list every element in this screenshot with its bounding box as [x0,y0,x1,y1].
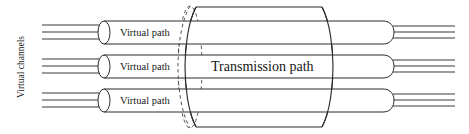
virtual-channels-left-bundle-1 [42,25,100,39]
virtual-channels-right-bundle-1 [393,26,455,38]
virtual-channels-right-bundle-2 [393,60,455,72]
virtual-path-label-2: Virtual path [120,61,171,72]
virtual-channels-right-bundle-3 [393,94,455,106]
virtual-path-label-1: Virtual path [120,27,171,38]
transmission-path-diagram: Virtual path Virtual path Virtual path T… [0,0,469,134]
virtual-path-label-3: Virtual path [120,95,171,106]
virtual-channels-left-bundle-3 [42,93,100,107]
virtual-channels-left-bundle-2 [42,59,100,73]
virtual-channels-label: Virtual channels [16,36,26,98]
diagram-canvas: Virtual path Virtual path Virtual path T… [0,0,469,134]
transmission-path-label: Transmission path [211,59,314,74]
